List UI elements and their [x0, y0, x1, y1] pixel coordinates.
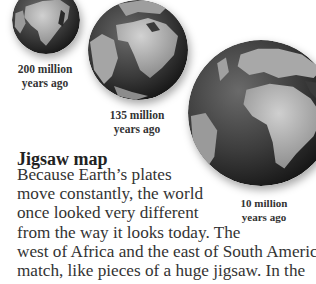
- body-line: move constantly, the world: [17, 184, 316, 203]
- earth-globe-icon: [12, 0, 80, 54]
- body-line: west of Africa and the east of South Ame…: [17, 242, 316, 261]
- body-line: Because Earth’s plates: [17, 165, 316, 184]
- globe-135-million-years: [88, 0, 188, 100]
- body-line: match, like pieces of a huge jigsaw. In …: [17, 261, 316, 280]
- body-line: once looked very different: [17, 203, 316, 222]
- earth-globe-icon: [88, 0, 188, 100]
- caption-line-1: 135 million: [96, 108, 178, 122]
- caption-line-2: years ago: [4, 76, 86, 90]
- globe-200-caption: 200 million years ago: [4, 62, 86, 90]
- body-line: from the way it looks today. The: [17, 223, 316, 242]
- section-body: Because Earth’s plates move constantly, …: [17, 165, 316, 280]
- globe-200-million-years: [12, 0, 80, 54]
- caption-line-1: 200 million: [4, 62, 86, 76]
- globe-135-caption: 135 million years ago: [96, 108, 178, 136]
- caption-line-2: years ago: [96, 122, 178, 136]
